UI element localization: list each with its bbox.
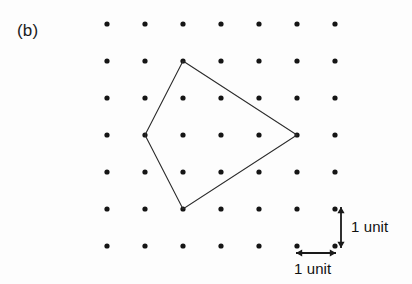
lattice-dot: [294, 21, 299, 26]
lattice-dot: [256, 132, 261, 137]
lattice-dot: [142, 58, 147, 63]
lattice-dot: [142, 243, 147, 248]
lattice-dot: [104, 132, 109, 137]
lattice-figure-canvas: [0, 0, 412, 284]
lattice-dot: [332, 169, 337, 174]
lattice-dot: [256, 21, 261, 26]
lattice-dot: [256, 95, 261, 100]
lattice-dot: [104, 21, 109, 26]
lattice-dot: [218, 243, 223, 248]
lattice-dot: [332, 132, 337, 137]
lattice-dot: [218, 95, 223, 100]
lattice-dot: [256, 169, 261, 174]
lattice-dot: [180, 21, 185, 26]
lattice-dot: [294, 95, 299, 100]
arrowhead: [296, 249, 302, 256]
lattice-dot: [294, 169, 299, 174]
lattice-dot: [294, 58, 299, 63]
lattice-dot: [180, 95, 185, 100]
arrowhead: [337, 207, 344, 213]
lattice-dot: [104, 95, 109, 100]
scale-bar-group: [296, 207, 345, 257]
vertical-scale-label: 1 unit: [351, 218, 388, 235]
lattice-dot: [294, 243, 299, 248]
lattice-dot: [256, 243, 261, 248]
lattice-dot: [142, 21, 147, 26]
figure-panel-b: (b) 1 unit 1 unit: [0, 0, 412, 284]
lattice-dot: [332, 21, 337, 26]
lattice-dot: [104, 206, 109, 211]
lattice-dot: [218, 206, 223, 211]
lattice-dot: [104, 169, 109, 174]
lattice-dot: [256, 206, 261, 211]
lattice-dot: [218, 132, 223, 137]
lattice-dot: [180, 132, 185, 137]
lattice-dot: [332, 243, 337, 248]
lattice-dot: [332, 206, 337, 211]
lattice-dot: [332, 58, 337, 63]
lattice-dot: [180, 243, 185, 248]
panel-label: (b): [17, 21, 38, 41]
lattice-dot: [256, 58, 261, 63]
lattice-dot: [332, 95, 337, 100]
lattice-dot-group: [104, 21, 337, 248]
lattice-dot: [294, 206, 299, 211]
arrowhead: [330, 249, 336, 256]
lattice-dot: [104, 243, 109, 248]
lattice-dot: [142, 169, 147, 174]
lattice-dot: [104, 58, 109, 63]
lattice-dot: [218, 169, 223, 174]
lattice-dot: [218, 58, 223, 63]
arrowhead: [337, 242, 344, 248]
lattice-dot: [218, 21, 223, 26]
lattice-dot: [142, 206, 147, 211]
horizontal-scale-label: 1 unit: [294, 260, 331, 277]
lattice-dot: [142, 95, 147, 100]
lattice-dot: [180, 169, 185, 174]
